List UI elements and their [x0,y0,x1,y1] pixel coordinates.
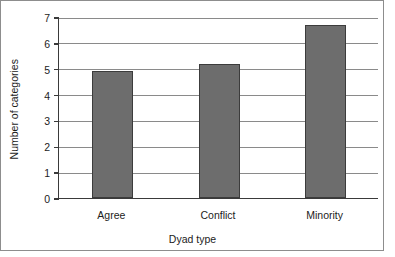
y-axis-tick [54,17,59,19]
plot-area [58,18,378,199]
gridline [59,18,378,19]
x-axis-tick-label: Minority [275,210,375,221]
y-axis-tick [54,43,59,45]
y-axis-title: Number of categories [9,39,20,179]
y-axis-tick [54,121,59,123]
y-axis-tick-label: 7 [10,13,50,24]
x-axis-title: Dyad type [0,234,385,245]
y-axis-tick [54,69,59,71]
y-axis-tick [54,198,59,200]
x-axis-tick-label: Agree [61,210,161,221]
y-axis-tick [54,95,59,97]
bar [305,25,346,198]
y-axis-tick-label: 0 [10,194,50,205]
x-axis-tick-label: Conflict [168,210,268,221]
bar-chart-figure: 01234567 AgreeConflictMinority Dyad type… [0,0,395,257]
bar [92,71,133,198]
y-axis-tick [54,172,59,174]
y-axis-tick [54,147,59,149]
bar [199,64,240,198]
